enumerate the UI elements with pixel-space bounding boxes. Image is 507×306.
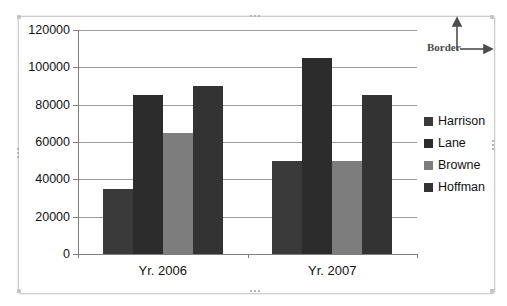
resize-handle-bottom[interactable]: [250, 290, 260, 292]
y-axis-label-60000: 60000: [18, 135, 70, 149]
y-axis-label-80000: 80000: [18, 98, 70, 112]
y-tick-40000: [73, 179, 78, 180]
legend-item-harrison[interactable]: Harrison: [424, 110, 485, 132]
bar-harrison-yr-2007[interactable]: [272, 161, 302, 254]
legend-swatch-harrison: [424, 117, 433, 126]
y-axis-label-20000: 20000: [18, 210, 70, 224]
resize-handle-bottom-left[interactable]: [17, 289, 21, 293]
x-tick-0: [78, 254, 79, 258]
y-tick-60000: [73, 142, 78, 143]
arrow-right-icon: [460, 45, 492, 53]
bar-lane-yr-2006[interactable]: [133, 95, 163, 254]
y-axis-label-100000: 100000: [18, 60, 70, 74]
border-annotation: Border: [415, 10, 505, 60]
legend: HarrisonLaneBrowneHoffman: [424, 110, 485, 198]
arrow-up-icon: [453, 18, 461, 50]
resize-handle-bottom-right[interactable]: [490, 289, 494, 293]
y-tick-120000: [73, 30, 78, 31]
legend-swatch-browne: [424, 161, 433, 170]
bar-browne-yr-2007[interactable]: [332, 161, 362, 254]
legend-item-hoffman[interactable]: Hoffman: [424, 176, 485, 198]
bar-browne-yr-2006[interactable]: [163, 133, 193, 254]
y-tick-100000: [73, 67, 78, 68]
x-tick-2: [417, 254, 418, 258]
chart-screenshot: 020000400006000080000100000120000 Yr. 20…: [0, 0, 507, 306]
bar-hoffman-yr-2006[interactable]: [193, 86, 223, 254]
resize-handle-top[interactable]: [250, 15, 260, 17]
legend-swatch-lane: [424, 139, 433, 148]
legend-label-lane: Lane: [438, 136, 466, 150]
x-axis-label-yr-2007: Yr. 2007: [287, 263, 377, 278]
resize-handle-top-left[interactable]: [17, 15, 21, 19]
bar-lane-yr-2007[interactable]: [302, 58, 332, 254]
legend-label-harrison: Harrison: [438, 114, 485, 128]
x-axis-label-yr-2006: Yr. 2006: [118, 263, 208, 278]
legend-swatch-hoffman: [424, 183, 433, 192]
y-tick-20000: [73, 217, 78, 218]
resize-handle-right[interactable]: [492, 140, 494, 150]
legend-item-browne[interactable]: Browne: [424, 154, 485, 176]
y-tick-80000: [73, 105, 78, 106]
y-axis-label-40000: 40000: [18, 172, 70, 186]
border-annotation-arrows: [415, 10, 505, 60]
legend-label-browne: Browne: [438, 158, 480, 172]
resize-handle-left[interactable]: [17, 148, 19, 158]
bar-harrison-yr-2006[interactable]: [103, 189, 133, 254]
x-tick-1: [248, 254, 249, 258]
legend-label-hoffman: Hoffman: [438, 180, 485, 194]
y-axis-label-0: 0: [18, 247, 70, 261]
y-axis-label-120000: 120000: [18, 23, 70, 37]
bar-hoffman-yr-2007[interactable]: [362, 95, 392, 254]
legend-item-lane[interactable]: Lane: [424, 132, 485, 154]
